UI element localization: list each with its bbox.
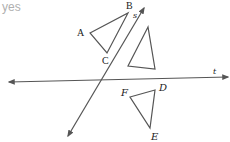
triangle-def [130,90,155,128]
triangle-unlabeled [128,27,155,69]
label-t: t [213,67,217,76]
label-c: C [102,55,109,66]
label-s: s [133,11,137,20]
label-a: A [77,27,85,38]
triangle-abc [90,13,128,53]
label-d: D [158,82,167,93]
label-b: B [126,0,133,11]
label-f: F [120,87,129,98]
label-e: E [150,131,159,142]
geometry-diagram: A B C s t F D E [0,0,230,142]
line-t [9,77,228,82]
